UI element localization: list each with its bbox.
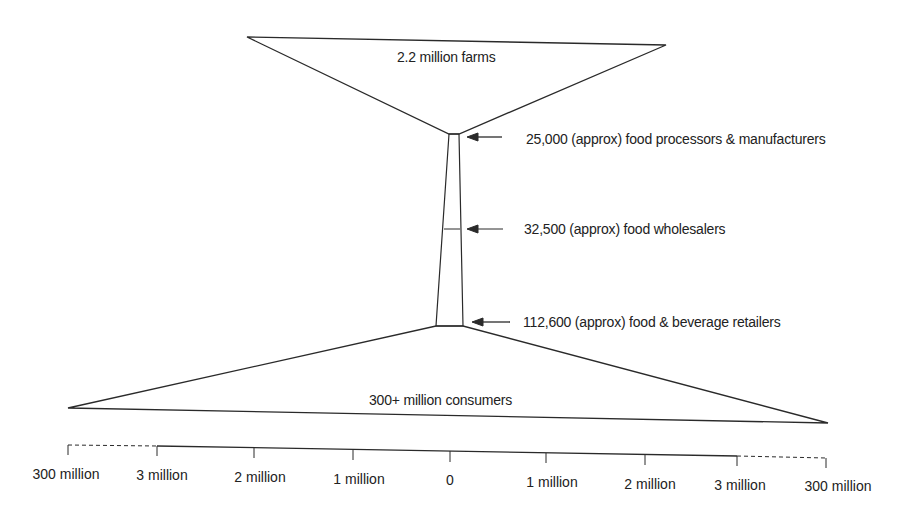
axis-tick-label: 0	[446, 472, 454, 488]
axis-tick-label: 2 million	[624, 476, 675, 492]
axis-tick-label: 1 million	[526, 474, 577, 490]
axis-tick-label: 2 million	[234, 469, 285, 485]
supply-chain-stem	[436, 134, 463, 326]
axis-tick-label: 3 million	[714, 477, 765, 493]
arrow-icon	[467, 225, 503, 233]
wholesalers-label: 32,500 (approx) food wholesalers	[524, 221, 725, 237]
x-axis	[68, 445, 826, 468]
funnel-diagram	[0, 0, 916, 531]
arrow-icon	[467, 133, 502, 141]
axis-tick-label: 300 million	[33, 466, 100, 482]
consumers-label: 300+ million consumers	[369, 392, 512, 408]
farms-label: 2.2 million farms	[397, 49, 496, 65]
axis-tick-label: 1 million	[333, 471, 384, 487]
retailers-label: 112,600 (approx) food & beverage retaile…	[523, 314, 781, 330]
axis-tick-label: 3 million	[136, 467, 187, 483]
consumers-triangle	[68, 326, 828, 423]
processors-label: 25,000 (approx) food processors & manufa…	[526, 131, 826, 147]
arrow-icon	[472, 318, 510, 326]
axis-tick-label: 300 million	[805, 478, 872, 494]
